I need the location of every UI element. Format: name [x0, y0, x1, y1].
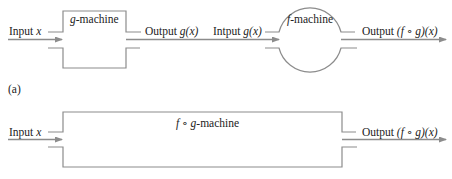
g-machine-label: g-machine: [70, 13, 119, 26]
part-b: Input x f ∘ g-machine Output (f ∘ g)(x): [8, 112, 446, 167]
function-composition-diagram: Input x g-machine Output g(x) Intput g(x…: [0, 0, 452, 179]
f-output-label: Output (f ∘ g)(x): [362, 25, 438, 38]
input-x-label-b: Input x: [9, 126, 42, 139]
fog-output-label: Output (f ∘ g)(x): [362, 126, 438, 139]
part-a: Input x g-machine Output g(x) Intput g(x…: [8, 8, 446, 96]
f-input-label: Intput g(x): [213, 25, 262, 38]
input-x-label: Input x: [9, 25, 42, 38]
fog-machine-label: f ∘ g-machine: [176, 117, 239, 130]
g-output-label: Output g(x): [145, 25, 199, 38]
caption-a: (a): [8, 83, 21, 96]
f-machine-label: f-machine: [287, 13, 333, 26]
